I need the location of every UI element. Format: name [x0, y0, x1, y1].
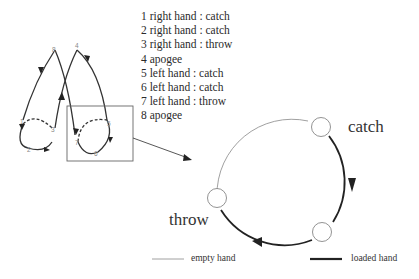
- point-label-6: 6: [94, 150, 98, 157]
- catch-label: catch: [348, 117, 384, 137]
- legend-item: 3 right hand : throw: [141, 37, 232, 51]
- point-label-4: 4: [75, 42, 79, 49]
- catch-position-circle: [312, 118, 331, 137]
- fall-apogee-8-to-right: [23, 50, 55, 120]
- legend-item: 8 apogee: [141, 108, 232, 122]
- legend-item: 2 right hand : catch: [141, 23, 232, 37]
- throw-position-circle: [208, 189, 227, 208]
- loaded-hand-arc-1: [329, 136, 345, 222]
- arrow-icon: [183, 154, 192, 161]
- point-label-7: 7: [75, 139, 79, 146]
- throw-label: throw: [169, 210, 209, 230]
- arrow-icon: [108, 137, 113, 143]
- point-label-8: 8: [52, 46, 56, 53]
- point-legend: 1 right hand : catch 2 right hand : catc…: [141, 9, 232, 123]
- zoom-inset-box: [67, 106, 133, 161]
- empty-hand-arc: [217, 119, 308, 196]
- point-label-3: 3: [51, 126, 55, 133]
- legend-item: 6 left hand : catch: [141, 80, 232, 94]
- loaded-hand-arc-2: [221, 210, 312, 245]
- point-label-5: 5: [107, 120, 111, 127]
- legend-item: 5 left hand : catch: [141, 66, 232, 80]
- left-hand-empty-path: [78, 119, 107, 142]
- loaded-hand-key-label: loaded hand: [351, 253, 397, 263]
- point-label-1: 1: [20, 118, 24, 125]
- carry-position-circle: [313, 223, 332, 242]
- legend-item: 1 right hand : catch: [141, 9, 232, 23]
- empty-hand-key-label: empty hand: [191, 253, 236, 263]
- zoom-pointer-line: [133, 138, 188, 158]
- throw-right-to-apogee-4: [55, 50, 77, 128]
- point-labels: 1 2 3 4 5 6 7 8: [20, 42, 111, 157]
- point-label-2: 2: [27, 146, 31, 153]
- right-hand-empty-path: [23, 119, 52, 128]
- right-hand-carry-path: [28, 142, 52, 150]
- large-hand-cycle-diagram: [208, 118, 357, 248]
- left-hand-carry-path: [78, 120, 110, 154]
- legend-item: 4 apogee: [141, 52, 232, 66]
- fall-apogee-4-to-left: [77, 50, 107, 120]
- arrow-icon: [348, 178, 356, 192]
- arrow-icon: [58, 92, 65, 100]
- legend-item: 7 left hand : throw: [141, 94, 232, 108]
